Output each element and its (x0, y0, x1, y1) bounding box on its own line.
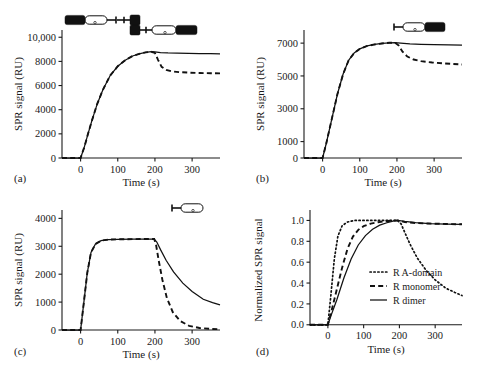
y-tick-label: 0.0 (291, 319, 304, 330)
y-tick-label: 7000 (277, 38, 298, 49)
y-tick-label: 6000 (35, 80, 56, 91)
y-tick-label: 2000 (35, 269, 56, 280)
legend: R A-domainR monomerR dimer (370, 267, 442, 306)
y-tick-label: 4000 (35, 104, 56, 115)
x-axis-title: Time (s) (364, 176, 402, 189)
y-tick-label: 0 (293, 153, 298, 164)
inset-schematic-dimer (65, 15, 197, 35)
legend-label: R dimer (393, 295, 426, 306)
y-tick-label: 0.6 (291, 257, 304, 268)
y-tick-label: 4000 (35, 213, 56, 224)
inset-schematic-adomain (172, 204, 203, 212)
y-tick-label: 0.4 (291, 278, 305, 289)
panel-d: 0.00.20.40.60.81.00100200300Time (s)Norm… (242, 196, 484, 365)
panel-a: 0200040006000800010,0000100200300Time (s… (0, 0, 242, 196)
x-tick-label: 200 (392, 330, 408, 341)
x-tick-label: 0 (78, 164, 83, 175)
inset-schematic-monomer (394, 22, 445, 31)
x-tick-label: 200 (147, 164, 163, 175)
x-tick-label: 100 (110, 336, 126, 347)
y-tick-label: 1000 (277, 136, 298, 147)
panel-c: 010002000300040000100200300Time (s)SPR s… (0, 196, 242, 365)
y-tick-label: 10,000 (27, 32, 56, 43)
axes: 010003000500070000100200300 (277, 30, 462, 175)
panel-label: (a) (14, 172, 27, 185)
y-tick-label: 3000 (277, 103, 298, 114)
spr-sensorgram-figure: 0200040006000800010,0000100200300Time (s… (0, 0, 484, 365)
x-tick-label: 0 (78, 336, 83, 347)
x-tick-label: 0 (320, 164, 325, 175)
x-tick-label: 200 (389, 164, 405, 175)
y-tick-label: 8000 (35, 56, 56, 67)
axes: 0200040006000800010,0000100200300 (27, 30, 220, 175)
x-tick-label: 0 (325, 330, 330, 341)
x-tick-label: 100 (352, 164, 368, 175)
x-axis-title: Time (s) (122, 348, 160, 361)
y-axis-title: SPR signal (RU) (254, 57, 267, 131)
y-tick-label: 1.0 (291, 215, 304, 226)
panel-b: 010003000500070000100200300Time (s)SPR s… (242, 0, 484, 196)
y-tick-label: 0.8 (291, 236, 304, 247)
curve-solid (62, 239, 220, 330)
panel-label: (d) (256, 345, 269, 358)
y-axis-title: Normalized SPR signal (252, 218, 264, 321)
x-tick-label: 100 (110, 164, 126, 175)
legend-label: R A-domain (393, 267, 442, 278)
x-tick-label: 200 (147, 336, 163, 347)
y-tick-label: 0 (51, 325, 56, 336)
x-tick-label: 300 (427, 330, 443, 341)
y-tick-label: 3000 (35, 241, 56, 252)
y-tick-label: 0.2 (291, 299, 304, 310)
panel-label: (b) (256, 172, 269, 185)
x-axis-title: Time (s) (367, 343, 405, 356)
panel-label: (c) (14, 345, 27, 358)
x-tick-label: 100 (356, 330, 372, 341)
legend-label: R monomer (393, 281, 441, 292)
y-axis-title: SPR signal (RU) (12, 233, 25, 307)
x-axis-title: Time (s) (122, 176, 160, 189)
y-axis-title: SPR signal (RU) (12, 57, 25, 131)
y-tick-label: 5000 (277, 71, 298, 82)
curve-dashed (62, 52, 220, 158)
x-tick-label: 300 (184, 164, 200, 175)
y-tick-label: 0 (51, 153, 56, 164)
y-tick-label: 2000 (35, 128, 56, 139)
x-tick-label: 300 (426, 164, 442, 175)
curve-dashed (304, 43, 462, 158)
y-tick-label: 1000 (35, 297, 56, 308)
x-tick-label: 300 (184, 336, 200, 347)
